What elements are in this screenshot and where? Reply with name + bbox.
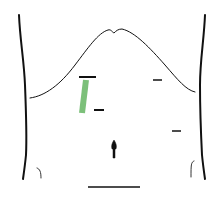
right-groin-line bbox=[191, 161, 194, 177]
costal-margin-curve bbox=[30, 29, 195, 98]
left-groin-line bbox=[37, 168, 41, 178]
diagram-svg bbox=[0, 0, 218, 199]
umbilicus-mark bbox=[112, 140, 117, 158]
abdomen-diagram bbox=[0, 0, 218, 199]
left-body-contour bbox=[19, 15, 26, 179]
right-body-contour bbox=[200, 15, 205, 179]
incision-mark bbox=[82, 80, 86, 113]
